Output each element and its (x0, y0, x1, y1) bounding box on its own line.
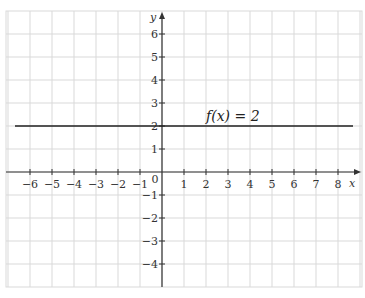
svg-text:−4: −4 (66, 178, 82, 191)
svg-text:3: 3 (151, 97, 158, 110)
svg-text:4: 4 (247, 178, 254, 191)
svg-text:6: 6 (151, 28, 158, 41)
svg-text:−2: −2 (110, 178, 126, 191)
svg-text:8: 8 (335, 178, 342, 191)
grid (6, 11, 362, 287)
svg-text:4: 4 (151, 74, 158, 87)
x-axis-label: x (349, 177, 356, 190)
origin-label: 0 (152, 173, 159, 186)
y-axis-label: y (149, 11, 157, 24)
svg-text:1: 1 (151, 143, 158, 156)
svg-text:−3: −3 (88, 178, 104, 191)
svg-text:−6: −6 (22, 178, 38, 191)
svg-text:7: 7 (313, 178, 320, 191)
svg-text:−4: −4 (142, 258, 158, 271)
svg-text:2: 2 (203, 178, 210, 191)
svg-text:−3: −3 (142, 235, 158, 248)
svg-text:5: 5 (269, 178, 276, 191)
svg-text:−5: −5 (44, 178, 60, 191)
svg-text:6: 6 (291, 178, 298, 191)
svg-text:−1: −1 (142, 189, 158, 202)
svg-text:3: 3 (225, 178, 232, 191)
svg-text:5: 5 (151, 51, 158, 64)
svg-text:1: 1 (181, 178, 188, 191)
svg-text:−2: −2 (142, 212, 158, 225)
function-label: f(x) = 2 (205, 108, 260, 124)
function-graph: −6−5−4−3−2−112345678654321−1−2−3−4 x y 0… (0, 0, 365, 298)
